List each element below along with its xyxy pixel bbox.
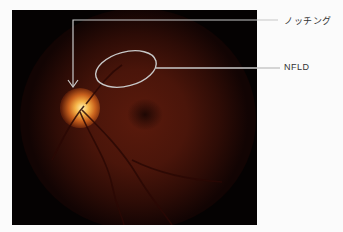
- notching-pointer: [68, 20, 278, 87]
- nfld-marker: [92, 45, 280, 94]
- annotation-overlay: [0, 0, 343, 232]
- notching-label: ノッチング: [284, 14, 332, 27]
- nfld-label: NFLD: [284, 62, 310, 72]
